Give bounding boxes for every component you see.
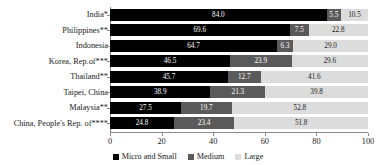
bar-value-label: 69.6	[110, 24, 290, 36]
bar-segment: 21.3	[210, 86, 265, 98]
bar-value-label: 45.7	[110, 71, 228, 83]
chart-legend: Micro and SmallMediumLarge	[0, 150, 376, 163]
bar-segment: 29.6	[292, 55, 368, 67]
stacked-bar: 38.921.339.8	[110, 86, 368, 98]
x-axis-tick-label: 20	[147, 136, 177, 148]
x-axis-tick-label: 80	[301, 136, 331, 148]
bar-segment: 69.6	[110, 24, 290, 36]
legend-label: Medium	[197, 152, 225, 162]
x-axis-tick-label: 60	[250, 136, 280, 148]
x-axis-tick-label: 100	[353, 136, 376, 148]
x-axis-tick-label: 40	[198, 136, 228, 148]
legend-swatch-icon	[113, 154, 119, 160]
chart-row: Malaysia**27.519.752.8	[0, 100, 376, 116]
bar-segment: 27.5	[110, 102, 181, 114]
bar-value-label: 52.8	[232, 102, 368, 114]
x-axis-line	[110, 132, 368, 133]
bar-segment: 6.3	[277, 40, 293, 52]
category-label: Philippines**	[0, 23, 108, 39]
x-axis-tick	[368, 133, 369, 136]
legend-swatch-icon	[188, 154, 194, 160]
chart-row: Korea, Rep.of***46.523.929.6	[0, 54, 376, 70]
bar-value-label: 19.7	[181, 102, 232, 114]
stacked-bar: 24.823.451.8	[110, 117, 368, 129]
stacked-bar: 64.76.329.0	[110, 40, 368, 52]
category-label: Malaysia**	[0, 100, 108, 116]
bar-value-label: 22.8	[309, 24, 368, 36]
bar-value-label: 39.8	[265, 86, 368, 98]
bar-segment: 38.9	[110, 86, 210, 98]
bar-value-label: 46.5	[110, 55, 230, 67]
bar-segment: 10.5	[341, 9, 368, 21]
category-label: Korea, Rep.of***	[0, 54, 108, 70]
bar-segment: 46.5	[110, 55, 230, 67]
bar-segment: 19.7	[181, 102, 232, 114]
bar-value-label: 84.0	[110, 9, 327, 21]
x-axis-tick	[316, 133, 317, 136]
bar-value-label: 23.9	[230, 55, 292, 67]
legend-item[interactable]: Medium	[188, 152, 225, 162]
legend-swatch-icon	[235, 154, 241, 160]
stacked-bar: 45.712.741.6	[110, 71, 368, 83]
category-label: Taipei, China	[0, 85, 108, 101]
bar-segment: 29.0	[293, 40, 368, 52]
chart-row: Thailand**45.712.741.6	[0, 69, 376, 85]
bar-segment: 52.8	[232, 102, 368, 114]
bar-value-label: 38.9	[110, 86, 210, 98]
bar-value-label: 24.8	[110, 117, 174, 129]
bar-segment: 23.9	[230, 55, 292, 67]
bar-value-label: 29.0	[293, 40, 368, 52]
bar-segment: 64.7	[110, 40, 277, 52]
chart-row: Taipei, China38.921.339.8	[0, 85, 376, 101]
legend-label: Large	[244, 152, 263, 162]
bar-value-label: 10.5	[341, 9, 368, 21]
bar-value-label: 6.3	[277, 40, 293, 52]
bar-value-label: 41.6	[261, 71, 368, 83]
category-label: Indonesia	[0, 38, 108, 54]
bar-segment: 22.8	[309, 24, 368, 36]
chart-plot-area: India*84.05.510.5Philippines**69.67.522.…	[0, 7, 376, 131]
bar-segment: 5.5	[327, 9, 341, 21]
stacked-bar: 84.05.510.5	[110, 9, 368, 21]
bar-value-label: 64.7	[110, 40, 277, 52]
bar-value-label: 23.4	[174, 117, 234, 129]
chart-row: India*84.05.510.5	[0, 7, 376, 23]
chart-row: China, People's Rep. of****24.823.451.8	[0, 116, 376, 132]
bar-segment: 45.7	[110, 71, 228, 83]
x-axis-tick	[110, 133, 111, 136]
bar-segment: 24.8	[110, 117, 174, 129]
bar-segment: 51.8	[234, 117, 368, 129]
category-label: China, People's Rep. of****	[0, 116, 108, 132]
x-axis-tick	[162, 133, 163, 136]
bar-value-label: 29.6	[292, 55, 368, 67]
x-axis-tick	[213, 133, 214, 136]
category-label: Thailand**	[0, 69, 108, 85]
bar-value-label: 7.5	[290, 24, 309, 36]
bar-segment: 41.6	[261, 71, 368, 83]
stacked-bar: 69.67.522.8	[110, 24, 368, 36]
bar-segment: 23.4	[174, 117, 234, 129]
stacked-bar: 46.523.929.6	[110, 55, 368, 67]
x-axis-tick-label: 0	[95, 136, 125, 148]
legend-item[interactable]: Micro and Small	[113, 152, 177, 162]
bar-segment: 7.5	[290, 24, 309, 36]
stacked-bar: 27.519.752.8	[110, 102, 368, 114]
bar-value-label: 21.3	[210, 86, 265, 98]
bar-segment: 84.0	[110, 9, 327, 21]
x-axis-tick	[265, 133, 266, 136]
bar-segment: 12.7	[228, 71, 261, 83]
chart-row: Indonesia64.76.329.0	[0, 38, 376, 54]
chart-row: Philippines**69.67.522.8	[0, 23, 376, 39]
legend-label: Micro and Small	[122, 152, 177, 162]
x-axis-tick-labels: 020406080100	[110, 136, 368, 148]
bar-value-label: 12.7	[228, 71, 261, 83]
bar-segment: 39.8	[265, 86, 368, 98]
bar-value-label: 51.8	[234, 117, 368, 129]
legend-item[interactable]: Large	[235, 152, 263, 162]
category-label: India*	[0, 7, 108, 23]
bar-value-label: 5.5	[327, 9, 341, 21]
bar-value-label: 27.5	[110, 102, 181, 114]
stacked-bar-chart: India*84.05.510.5Philippines**69.67.522.…	[0, 0, 376, 165]
